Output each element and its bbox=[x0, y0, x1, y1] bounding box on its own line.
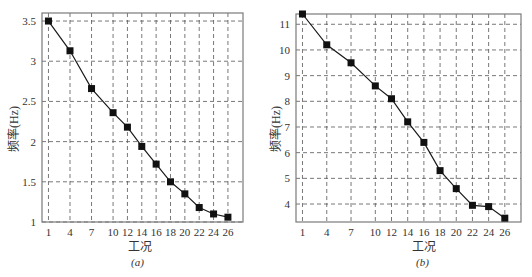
x-tick-label: 4 bbox=[324, 226, 330, 238]
square-marker-icon bbox=[110, 109, 117, 116]
square-marker-icon bbox=[348, 59, 355, 66]
square-marker-icon bbox=[420, 139, 427, 146]
x-tick-label: 1 bbox=[300, 226, 306, 238]
square-marker-icon bbox=[404, 118, 411, 125]
square-marker-icon bbox=[388, 95, 395, 102]
square-marker-icon bbox=[153, 161, 160, 168]
x-tick-label: 20 bbox=[179, 226, 191, 238]
square-marker-icon bbox=[196, 204, 203, 211]
x-tick-label: 12 bbox=[386, 226, 397, 238]
y-tick-label: 2 bbox=[31, 136, 37, 148]
line-chart-b: 1471012141618202224264567891011 bbox=[266, 0, 532, 277]
square-marker-icon bbox=[138, 143, 145, 150]
y-axis-label: 频率(Hz) bbox=[4, 106, 22, 152]
y-tick-label: 3.5 bbox=[22, 15, 36, 27]
square-marker-icon bbox=[437, 167, 444, 174]
square-marker-icon bbox=[501, 215, 508, 222]
x-tick-label: 26 bbox=[222, 226, 234, 238]
square-marker-icon bbox=[66, 47, 73, 54]
square-marker-icon bbox=[224, 214, 231, 221]
panel-caption: (a) bbox=[131, 256, 144, 268]
panel-caption: (b) bbox=[416, 256, 429, 268]
y-tick-label: 9 bbox=[285, 70, 291, 82]
square-marker-icon bbox=[469, 202, 476, 209]
x-tick-label: 18 bbox=[435, 226, 447, 238]
y-tick-label: 7 bbox=[285, 121, 291, 133]
square-marker-icon bbox=[167, 178, 174, 185]
y-tick-label: 10 bbox=[279, 44, 291, 56]
y-tick-label: 3 bbox=[31, 55, 37, 67]
line-chart-a: 14710121416182022242611.522.533.5 bbox=[0, 0, 266, 277]
chart-panel-a: 14710121416182022242611.522.533.5 频率(Hz)… bbox=[0, 0, 266, 277]
data-line bbox=[302, 14, 504, 218]
x-tick-label: 10 bbox=[108, 226, 120, 238]
x-tick-label: 20 bbox=[451, 226, 463, 238]
x-tick-label: 7 bbox=[89, 226, 95, 238]
square-marker-icon bbox=[181, 190, 188, 197]
square-marker-icon bbox=[88, 85, 95, 92]
x-tick-label: 24 bbox=[208, 226, 220, 238]
square-marker-icon bbox=[299, 11, 306, 18]
square-marker-icon bbox=[453, 185, 460, 192]
x-axis-label: 工况 bbox=[412, 237, 436, 255]
x-axis-label: 工况 bbox=[128, 237, 152, 255]
x-tick-label: 1 bbox=[46, 226, 52, 238]
x-tick-label: 26 bbox=[499, 226, 511, 238]
chart-panel-b: 1471012141618202224264567891011 频率(Hz) 工… bbox=[266, 0, 532, 277]
x-tick-label: 16 bbox=[151, 226, 163, 238]
y-axis-label: 频率(Hz) bbox=[266, 106, 284, 152]
square-marker-icon bbox=[372, 82, 379, 89]
y-tick-label: 2.5 bbox=[22, 95, 36, 107]
y-tick-label: 1.5 bbox=[22, 176, 36, 188]
y-tick-label: 1 bbox=[31, 216, 37, 228]
y-tick-label: 5 bbox=[285, 172, 291, 184]
square-marker-icon bbox=[124, 124, 131, 131]
square-marker-icon bbox=[45, 18, 52, 25]
y-tick-label: 6 bbox=[285, 147, 291, 159]
plot-frame bbox=[42, 13, 243, 222]
data-line bbox=[48, 21, 227, 217]
x-tick-label: 18 bbox=[165, 226, 177, 238]
x-tick-label: 24 bbox=[483, 226, 495, 238]
x-tick-label: 7 bbox=[348, 226, 354, 238]
x-tick-label: 22 bbox=[194, 226, 205, 238]
x-tick-label: 10 bbox=[370, 226, 382, 238]
square-marker-icon bbox=[323, 41, 330, 48]
x-tick-label: 22 bbox=[467, 226, 478, 238]
x-tick-label: 4 bbox=[67, 226, 73, 238]
y-tick-label: 4 bbox=[285, 198, 291, 210]
square-marker-icon bbox=[485, 203, 492, 210]
square-marker-icon bbox=[210, 210, 217, 217]
y-tick-label: 8 bbox=[285, 95, 291, 107]
y-tick-label: 11 bbox=[279, 18, 290, 30]
